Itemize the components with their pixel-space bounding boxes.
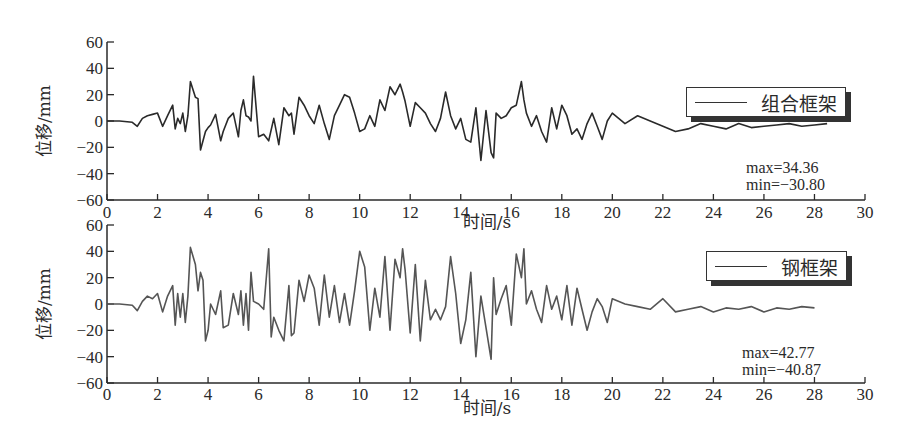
legend-line-icon <box>715 266 767 267</box>
y-tick-label: −40 <box>76 348 103 367</box>
y-tick-label: 40 <box>86 59 103 78</box>
x-tick-label: 22 <box>654 385 671 404</box>
x-tick-label: 10 <box>351 203 368 222</box>
y-axis-label: 位移/mm <box>34 85 54 157</box>
x-tick-label: 0 <box>103 203 112 222</box>
legend-line-icon <box>695 102 747 103</box>
x-tick-label: 12 <box>402 203 419 222</box>
x-tick-label: 26 <box>755 203 772 222</box>
x-tick-label: 26 <box>755 385 772 404</box>
x-tick-label: 30 <box>857 385 874 404</box>
x-tick-label: 2 <box>153 385 162 404</box>
y-tick-label: 40 <box>86 242 103 261</box>
top-plot-composite-frame: 6040200−20−40−60024681012141618202224262… <box>34 33 874 232</box>
x-tick-label: 10 <box>351 385 368 404</box>
x-tick-label: 18 <box>553 203 570 222</box>
y-tick-label: −60 <box>76 191 103 210</box>
legend-steel-frame: 钢框架 <box>706 251 847 281</box>
y-axis-label: 位移/mm <box>34 268 54 340</box>
y-tick-label: 60 <box>86 216 103 235</box>
x-tick-label: 20 <box>604 385 621 404</box>
x-tick-label: 0 <box>103 385 112 404</box>
y-tick-label: 60 <box>86 33 103 52</box>
y-tick-label: 0 <box>95 112 104 131</box>
x-tick-label: 28 <box>806 203 823 222</box>
x-tick-label: 28 <box>806 385 823 404</box>
legend-composite-frame: 组合框架 <box>686 87 846 117</box>
x-tick-label: 6 <box>254 385 263 404</box>
x-tick-label: 24 <box>705 203 723 222</box>
x-tick-label: 20 <box>604 203 621 222</box>
x-tick-label: 12 <box>402 385 419 404</box>
x-axis-label: 时间/s <box>463 398 511 418</box>
legend-label: 组合框架 <box>761 89 837 116</box>
x-tick-label: 30 <box>857 203 874 222</box>
min-annotation-bottom: min=−40.87 <box>742 361 821 378</box>
max-annotation-bottom: max=42.77 <box>742 344 815 361</box>
max-annotation-top: max=34.36 <box>746 159 819 176</box>
x-tick-label: 4 <box>204 203 213 222</box>
x-tick-label: 2 <box>153 203 162 222</box>
x-tick-label: 24 <box>705 385 723 404</box>
x-tick-label: 4 <box>204 385 213 404</box>
bottom-plot-steel-frame: 6040200−20−40−60024681012141618202224262… <box>34 216 874 418</box>
y-tick-label: −20 <box>76 138 103 157</box>
x-tick-label: 8 <box>305 385 314 404</box>
y-tick-label: 20 <box>86 86 103 105</box>
y-tick-label: −60 <box>76 374 103 393</box>
x-axis-label: 时间/s <box>463 212 511 232</box>
x-tick-label: 6 <box>254 203 263 222</box>
min-annotation-top: min=−30.80 <box>746 176 825 193</box>
x-tick-label: 8 <box>305 203 314 222</box>
x-tick-label: 22 <box>654 203 671 222</box>
y-tick-label: −20 <box>76 321 103 340</box>
y-tick-label: 0 <box>95 295 104 314</box>
legend-label: 钢框架 <box>781 253 838 280</box>
x-tick-label: 18 <box>553 385 570 404</box>
y-tick-label: −40 <box>76 165 103 184</box>
y-tick-label: 20 <box>86 269 103 288</box>
